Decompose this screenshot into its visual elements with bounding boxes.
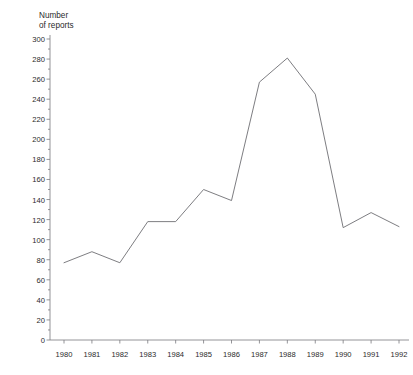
y-tick-label: 20	[19, 315, 45, 324]
data-series-line	[64, 58, 399, 263]
x-tick-label: 1980	[49, 350, 79, 359]
x-tick-label: 1989	[300, 350, 330, 359]
y-tick-label: 280	[19, 55, 45, 64]
x-tick-label: 1985	[189, 350, 219, 359]
line-chart-svg	[0, 0, 413, 375]
x-tick-label: 1983	[133, 350, 163, 359]
x-tick-label: 1986	[217, 350, 247, 359]
x-tick-label: 1988	[272, 350, 302, 359]
chart-plot-area: 0204060801001201401601802002202402602803…	[0, 0, 413, 375]
chart-figure: Number of reports 0204060801001201401601…	[0, 0, 413, 375]
x-tick-label: 1990	[328, 350, 358, 359]
y-tick-label: 160	[19, 175, 45, 184]
x-tick-label: 1982	[105, 350, 135, 359]
y-tick-label: 140	[19, 195, 45, 204]
y-tick-label: 220	[19, 115, 45, 124]
x-tick-label: 1992	[384, 350, 413, 359]
y-tick-label: 260	[19, 75, 45, 84]
y-tick-label: 40	[19, 295, 45, 304]
y-tick-label: 300	[19, 35, 45, 44]
x-tick-label: 1987	[244, 350, 274, 359]
y-tick-label: 120	[19, 215, 45, 224]
axis-ticks-group	[47, 39, 400, 344]
x-tick-label: 1984	[161, 350, 191, 359]
y-tick-label: 180	[19, 155, 45, 164]
axes-group	[50, 35, 409, 340]
y-tick-label: 100	[19, 235, 45, 244]
y-tick-label: 80	[19, 255, 45, 264]
x-tick-label: 1991	[356, 350, 386, 359]
y-tick-label: 240	[19, 95, 45, 104]
y-tick-label: 60	[19, 275, 45, 284]
y-tick-label: 0	[19, 336, 45, 345]
x-tick-label: 1981	[77, 350, 107, 359]
y-tick-label: 200	[19, 135, 45, 144]
